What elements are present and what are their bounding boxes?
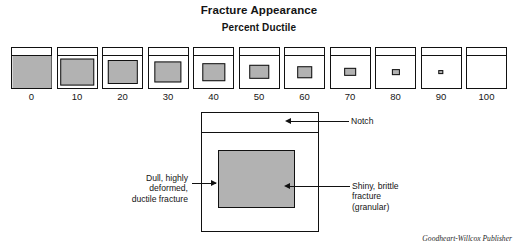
percent-ductile-axis-labels: 0102030405060708090100 xyxy=(11,91,507,102)
tick-label-40: 40 xyxy=(193,91,234,102)
detail-brittle-region xyxy=(218,150,295,208)
specimen-30-percent xyxy=(148,47,189,89)
specimen-notch-strip xyxy=(58,48,97,56)
tick-label-10: 10 xyxy=(57,91,98,102)
publisher-credit: Goodheart-Willcox Publisher xyxy=(422,234,512,243)
specimen-80-percent xyxy=(375,47,416,89)
specimen-0-percent xyxy=(11,47,52,89)
specimen-notch-strip xyxy=(467,48,506,56)
specimen-notch-strip xyxy=(422,48,461,56)
specimen-fracture-face xyxy=(103,56,142,88)
brittle-leader-arrow xyxy=(284,183,290,189)
specimen-brittle-region xyxy=(154,61,181,82)
specimen-fracture-face xyxy=(58,56,97,88)
specimen-fracture-face xyxy=(12,56,51,88)
tick-label-80: 80 xyxy=(375,91,416,102)
specimen-notch-strip xyxy=(149,48,188,56)
fracture-appearance-figure: Fracture Appearance Percent Ductile 0102… xyxy=(0,0,518,249)
ductile-leader-arrow xyxy=(211,180,217,186)
specimen-notch-strip xyxy=(285,48,324,56)
specimen-brittle-region xyxy=(202,63,225,81)
specimen-scale-row xyxy=(11,47,507,89)
specimen-40-percent xyxy=(193,47,234,89)
tick-label-70: 70 xyxy=(330,91,371,102)
specimen-50-percent xyxy=(239,47,280,89)
detail-specimen xyxy=(201,112,319,232)
specimen-fracture-face xyxy=(149,56,188,88)
specimen-fracture-face xyxy=(194,56,233,88)
tick-label-50: 50 xyxy=(239,91,280,102)
figure-subtitle: Percent Ductile xyxy=(0,22,518,33)
specimen-brittle-region xyxy=(60,59,94,86)
tick-label-60: 60 xyxy=(284,91,325,102)
specimen-fracture-face xyxy=(467,56,506,88)
specimen-brittle-region xyxy=(297,66,313,78)
tick-label-90: 90 xyxy=(421,91,462,102)
ductile-fracture-callout-label: Dull, highly deformed, ductile fracture xyxy=(84,173,188,204)
specimen-brittle-region xyxy=(249,65,269,79)
specimen-10-percent xyxy=(57,47,98,89)
specimen-notch-strip xyxy=(331,48,370,56)
specimen-brittle-region xyxy=(12,56,51,88)
specimen-fracture-face xyxy=(422,56,461,88)
specimen-notch-strip xyxy=(376,48,415,56)
specimen-brittle-region xyxy=(344,68,356,76)
specimen-60-percent xyxy=(284,47,325,89)
tick-label-30: 30 xyxy=(148,91,189,102)
specimen-brittle-region xyxy=(438,70,443,74)
specimen-20-percent xyxy=(102,47,143,89)
specimen-fracture-face xyxy=(285,56,324,88)
specimen-70-percent xyxy=(330,47,371,89)
specimen-100-percent xyxy=(466,47,507,89)
specimen-brittle-region xyxy=(107,60,137,84)
brittle-leader-line xyxy=(290,186,350,187)
tick-label-100: 100 xyxy=(466,91,507,102)
detail-fracture-face xyxy=(202,133,318,231)
specimen-fracture-face xyxy=(331,56,370,88)
specimen-90-percent xyxy=(421,47,462,89)
specimen-fracture-face xyxy=(240,56,279,88)
tick-label-20: 20 xyxy=(102,91,143,102)
specimen-fracture-face xyxy=(376,56,415,88)
specimen-notch-strip xyxy=(240,48,279,56)
notch-leader-arrow xyxy=(285,118,291,124)
detail-notch-strip xyxy=(202,113,318,133)
page-title: Fracture Appearance xyxy=(0,4,518,16)
tick-label-0: 0 xyxy=(11,91,52,102)
specimen-notch-strip xyxy=(12,48,51,56)
specimen-notch-strip xyxy=(103,48,142,56)
notch-leader-line xyxy=(291,121,349,122)
specimen-brittle-region xyxy=(391,69,399,75)
specimen-notch-strip xyxy=(194,48,233,56)
notch-callout-label: Notch xyxy=(351,116,373,126)
brittle-fracture-callout-label: Shiny, brittle fracture (granular) xyxy=(352,181,472,212)
